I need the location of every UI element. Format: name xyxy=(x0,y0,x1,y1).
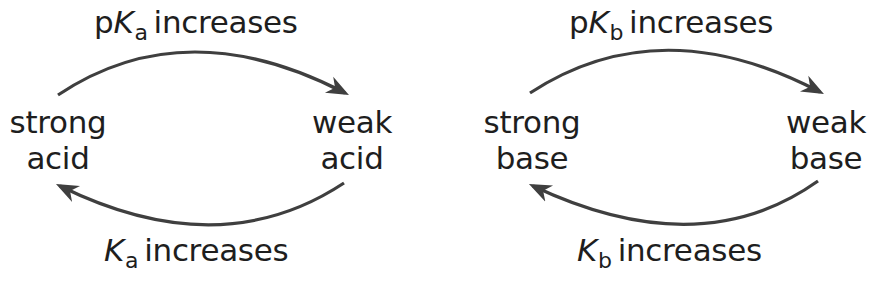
weak-acid-node: weak acid xyxy=(306,104,398,176)
label-text: increases xyxy=(144,232,288,268)
node-line2: acid xyxy=(8,140,108,176)
node-line1: strong xyxy=(8,104,108,140)
base-kb-arrow xyxy=(533,181,818,224)
node-line2: base xyxy=(482,140,582,176)
k-symbol: K xyxy=(113,4,133,40)
label-prefix: p xyxy=(569,4,588,40)
node-line1: strong xyxy=(482,104,582,140)
strong-acid-node: strong acid xyxy=(8,104,108,176)
strong-base-node: strong base xyxy=(482,104,582,176)
k-symbol: K xyxy=(577,232,597,268)
subscript: a xyxy=(125,248,138,273)
subscript: b xyxy=(598,248,612,273)
acid-pka-arrow xyxy=(58,52,345,95)
k-symbol: K xyxy=(104,232,124,268)
node-line2: base xyxy=(780,140,871,176)
pka-increases-label: pKaincreases xyxy=(94,5,298,43)
node-line1: weak xyxy=(306,104,398,140)
label-text: increases xyxy=(618,232,762,268)
weak-base-node: weak base xyxy=(780,104,871,176)
node-line2: acid xyxy=(306,140,398,176)
label-prefix: p xyxy=(94,4,113,40)
node-line1: weak xyxy=(780,104,871,140)
base-pkb-arrow xyxy=(530,50,820,93)
pkb-increases-label: pKbincreases xyxy=(569,5,773,43)
ka-increases-label: Kaincreases xyxy=(104,233,288,271)
acid-ka-arrow xyxy=(60,183,344,225)
subscript: a xyxy=(134,20,147,45)
label-text: increases xyxy=(629,4,773,40)
kb-increases-label: Kbincreases xyxy=(577,233,762,271)
label-text: increases xyxy=(154,4,298,40)
subscript: b xyxy=(609,20,623,45)
k-symbol: K xyxy=(588,4,608,40)
